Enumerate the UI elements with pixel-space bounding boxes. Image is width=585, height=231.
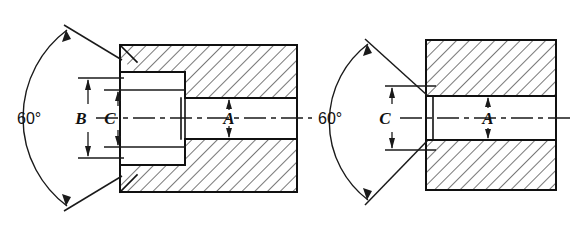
- right-view-group: 60° C A: [318, 38, 573, 205]
- right-angle-label: 60°: [318, 110, 342, 127]
- right-dim-a-arrow-top: [485, 97, 491, 107]
- left-angle-leader-bottom: [64, 176, 122, 211]
- left-dim-a-label: A: [222, 109, 234, 128]
- left-dim-b-arrow-bottom: [85, 146, 91, 157]
- left-dim-b-label: B: [74, 109, 86, 128]
- right-arc-arrow-top: [363, 44, 372, 56]
- left-dim-c-label: C: [104, 109, 116, 128]
- right-angle-leader-top: [365, 39, 428, 96]
- right-dim-a-label: A: [481, 109, 493, 128]
- right-dim-a-arrow-bottom: [485, 129, 491, 139]
- right-dim-c-arrow-top: [389, 87, 395, 98]
- left-arc-arrow-bottom: [62, 194, 71, 206]
- drawing-svg: 60° B C A: [0, 0, 585, 231]
- left-angle-label: 60°: [17, 110, 41, 127]
- right-dim-c-label: C: [379, 109, 391, 128]
- left-dim-a-arrow-bottom: [226, 128, 232, 138]
- left-dim-a-arrow-top: [226, 99, 232, 109]
- left-dim-b-arrow-top: [85, 79, 91, 90]
- engineering-drawing-canvas: 60° B C A: [0, 0, 585, 231]
- left-angle-leader-top: [64, 25, 122, 60]
- right-lower-section-hatch: [424, 138, 558, 192]
- left-arc-arrow-top: [62, 30, 71, 42]
- left-view-group: 60° B C A: [17, 25, 312, 211]
- right-dim-c-arrow-bottom: [389, 138, 395, 149]
- right-upper-section-hatch: [424, 38, 558, 98]
